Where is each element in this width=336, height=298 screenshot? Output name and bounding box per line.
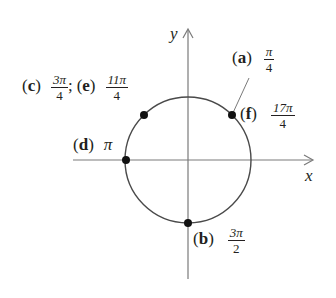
label-f: (f) 17π 4 [240,101,295,130]
tag-e: (e) [77,76,96,95]
label-c-e: (c) 3π 4 ; (e) 11π 4 [22,73,128,102]
separator-c-e: ; [68,76,73,95]
label-b: (b) 3π 2 [193,226,245,255]
tag-d: (d) [73,135,94,154]
diagram-canvas [0,0,336,298]
tag-c: (c) [22,76,41,95]
x-axis [73,155,313,165]
label-a: (a) π 4 [232,45,274,74]
tag-b: (b) [193,229,214,248]
point-b [184,219,192,227]
angle-b: 3π 2 [228,226,245,255]
angle-a: π 4 [264,45,275,74]
angle-e: 11π 4 [106,73,129,102]
tag-a: (a) [232,48,252,67]
tag-f: (f) [240,104,257,123]
y-axis [183,29,193,279]
unit-circle-diagram: y x (a) π 4 (f) 17π 4 (c) 3π 4 ; (e) 11π… [0,0,336,298]
point-c-e [140,111,148,119]
angle-d: π [104,135,113,154]
point-d [122,156,130,164]
y-axis-label: y [170,24,178,44]
point-a-f [228,111,236,119]
x-axis-label: x [305,166,313,186]
angle-c: 3π 4 [51,73,68,102]
angle-f: 17π 4 [271,101,295,130]
label-d: (d) π [73,135,112,155]
